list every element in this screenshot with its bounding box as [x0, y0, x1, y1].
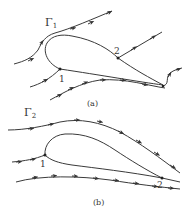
caption-a: (a)	[87, 99, 98, 108]
point-label-1-b: 1	[40, 159, 46, 169]
panel-a: Γ1 1 2 (a)	[14, 11, 182, 108]
stagnation-point-2-a	[117, 57, 120, 60]
trailing-edge-a	[162, 85, 165, 88]
circulation-label-b: Γ2	[24, 106, 36, 120]
streamline-a-upper	[14, 11, 112, 64]
stagnation-point-1-a	[59, 68, 62, 71]
streamline-b-trailing	[162, 178, 180, 182]
point-label-2-a: 2	[114, 46, 120, 56]
streamline-a-trailing	[163, 68, 182, 86]
point-label-1-a: 1	[59, 74, 65, 84]
circulation-label-a: Γ1	[45, 16, 57, 30]
streamline-b-lower	[16, 177, 180, 189]
streamline-b-upper	[8, 120, 180, 173]
airfoil-b	[45, 134, 162, 178]
airfoil-streamline-diagram: Γ1 1 2 (a)	[0, 0, 191, 214]
point-label-2-b: 2	[157, 180, 163, 190]
streamline-a-to-1	[30, 69, 60, 87]
caption-b: (b)	[93, 198, 104, 207]
streamline-a-from-2	[118, 32, 162, 58]
panel-b: Γ2 1 2 (b)	[8, 106, 180, 207]
stagnation-point-1-b	[44, 154, 47, 157]
